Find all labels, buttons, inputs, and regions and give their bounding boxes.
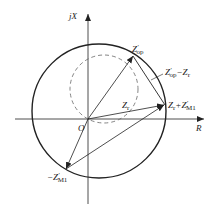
label-z-op-minus-z-r: Z′op−Zr bbox=[165, 66, 191, 79]
origin-label: O bbox=[78, 123, 85, 133]
x-axis-label: R bbox=[195, 123, 202, 133]
reference-circle-dashed bbox=[70, 55, 138, 123]
vector-z-r-plus-zm1 bbox=[66, 105, 164, 169]
vector-z-op-minus-z-r bbox=[133, 56, 165, 105]
label-neg-zm1: −Z′M1 bbox=[47, 171, 68, 184]
impedance-diagram: jX R O Z′op Z′op−Zr Zr Zr+Z′M1 −Z′M1 bbox=[0, 0, 222, 214]
label-z-r: Zr bbox=[122, 100, 130, 112]
label-z-r-plus-zm1: Zr+Z′M1 bbox=[168, 99, 196, 112]
y-axis-label: jX bbox=[68, 11, 78, 21]
leader-line bbox=[151, 74, 163, 80]
operating-circle bbox=[32, 44, 166, 178]
